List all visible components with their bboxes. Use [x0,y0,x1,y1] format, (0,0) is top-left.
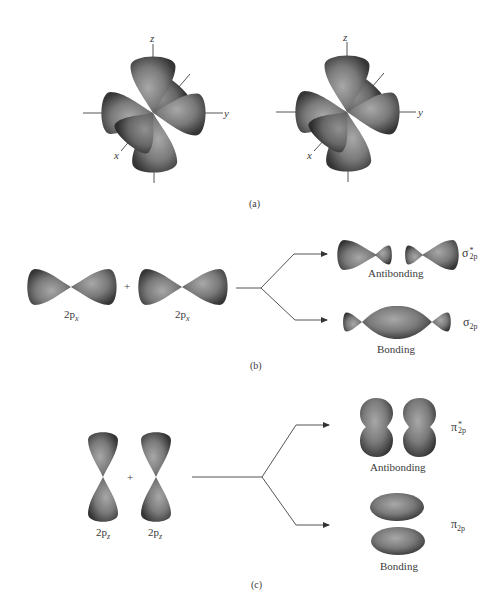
orbital-2px-second [138,269,227,305]
label-2px-first: 2px [64,309,79,320]
orbital-2pz-first [88,432,118,521]
pi-antibonding-orbital [360,398,436,457]
pi-star-2p-label: π*2p [451,421,466,435]
pi-2p-label: π2p [451,518,465,530]
axis-label-z-left: z [150,33,154,44]
panel-label-c: (c) [251,580,262,590]
p-orbital-set-left [83,44,223,183]
branch-arrows-sigma [236,254,327,320]
sigma-2p-label: σ2p [463,316,477,328]
orbital-2pz-second [141,432,171,521]
axis-label-y-left: y [224,108,229,119]
sigma-bonding-label: Bonding [377,344,415,355]
axis-label-z-right: z [343,32,347,43]
p-orbital-set-right [276,42,416,182]
branch-arrows-pi [192,425,329,525]
pi-bonding-label: Bonding [380,561,418,572]
sigma-bonding-orbital [343,306,451,339]
panel-label-a: (a) [249,199,260,209]
plus-sign-b: + [124,281,130,292]
pi-bonding-orbital [370,493,425,555]
axis-label-x-left: x [114,150,119,161]
orbital-2px-first [27,269,116,305]
label-2px-second: 2px [175,309,190,320]
plus-sign-c: + [127,472,133,483]
sigma-antibonding-orbital [337,240,458,270]
sigma-antibonding-label: Antibonding [368,268,424,279]
axis-label-x-right: x [307,150,312,161]
label-2pz-first: 2pz [96,527,110,538]
pi-antibonding-label: Antibonding [370,462,426,473]
label-2pz-second: 2pz [148,527,162,538]
sigma-star-2p-label: σ*2p [462,247,477,261]
panel-label-b: (b) [250,361,262,371]
orbital-diagram [0,0,502,614]
axis-label-y-right: y [418,107,423,118]
